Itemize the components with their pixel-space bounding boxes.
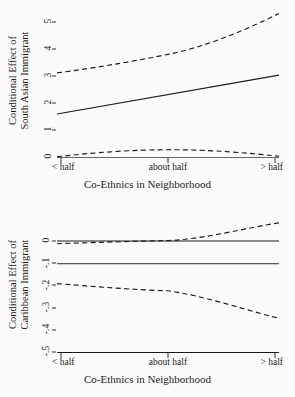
y-axis-ticks	[52, 241, 56, 352]
chart-panel-caribbean: Conditional Effect of Caribbean Immigran…	[0, 198, 295, 397]
x-axis-title-south-asian: Co-Ethnics in Neighborhood	[0, 178, 295, 190]
x-tick-label-greater-than-half: > half	[228, 357, 283, 367]
upper-confidence-band-line	[57, 14, 279, 73]
x-tick-label-about-half: about half	[133, 357, 203, 367]
plot-area-caribbean	[0, 198, 295, 397]
x-axis-title-caribbean: Co-Ethnics in Neighborhood	[0, 373, 295, 385]
y-axis-ticks	[52, 22, 56, 130]
x-tick-label-less-than-half: < half	[52, 357, 112, 367]
x-tick-label-greater-than-half: > half	[228, 162, 283, 172]
marginal-effect-line	[57, 75, 279, 114]
x-tick-label-less-than-half: < half	[52, 162, 112, 172]
lower-confidence-band-line	[57, 284, 279, 319]
x-tick-label-about-half: about half	[133, 162, 203, 172]
chart-panel-south-asian: Conditional Effect of South Asian Immigr…	[0, 0, 295, 198]
lower-confidence-band-line	[57, 150, 279, 157]
